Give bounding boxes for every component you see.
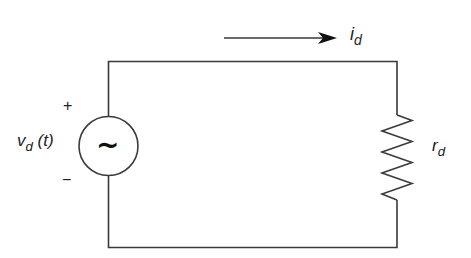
- source-voltage-label: vd (t): [17, 132, 54, 153]
- polarity-minus: −: [62, 172, 71, 188]
- wire-left-top: [109, 62, 398, 117]
- resistor-icon: [382, 115, 412, 200]
- circuit-diagram: [0, 0, 471, 258]
- resistor-label-sub: d: [438, 144, 445, 159]
- current-label-sub: d: [354, 32, 362, 48]
- source-label-main: v: [17, 131, 26, 150]
- source-label-sub: d: [26, 139, 33, 154]
- wire-left-bottom: [109, 176, 398, 248]
- source-label-arg: (t): [33, 131, 54, 150]
- polarity-plus: +: [63, 98, 72, 114]
- current-label: id: [350, 25, 362, 47]
- ac-tilde-symbol: ~: [96, 131, 119, 159]
- resistor-label: rd: [432, 137, 445, 158]
